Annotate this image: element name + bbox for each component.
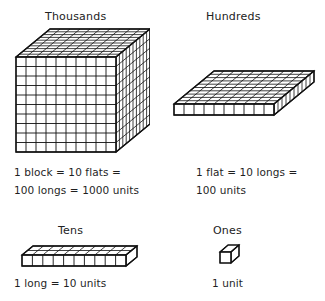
heading-hundreds: Hundreds	[206, 10, 261, 23]
block-cube-figure	[0, 20, 150, 160]
heading-ones: Ones	[213, 224, 242, 237]
heading-tens: Tens	[58, 224, 83, 237]
long-rod-figure	[18, 243, 148, 273]
base-ten-blocks-diagram: Thousands	[0, 0, 325, 301]
caption-thousands-line-2: 100 longs = 1000 units	[14, 184, 139, 196]
unit-cube-figure	[216, 242, 242, 268]
caption-hundreds-line-1: 1 flat = 10 longs =	[196, 166, 298, 178]
caption-thousands-line-1: 1 block = 10 flats =	[14, 166, 121, 178]
caption-ones-line-1: 1 unit	[212, 277, 243, 289]
flat-slab-figure	[168, 58, 320, 128]
caption-hundreds-line-2: 100 units	[196, 184, 246, 196]
caption-tens-line-1: 1 long = 10 units	[14, 277, 106, 289]
